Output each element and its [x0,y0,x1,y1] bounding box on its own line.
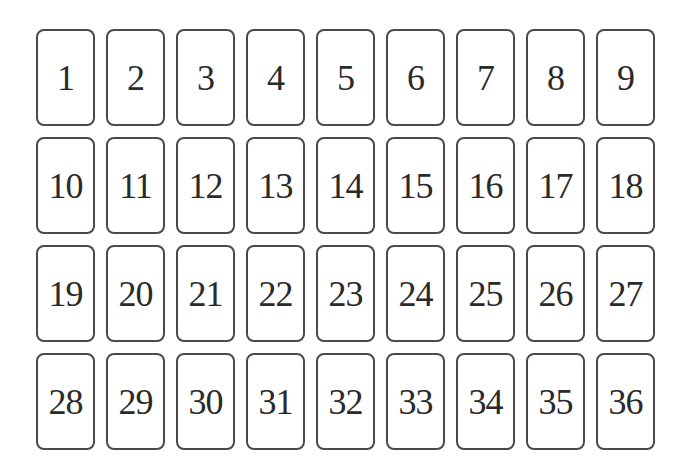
card[interactable]: 36 [596,353,655,450]
card[interactable]: 27 [596,245,655,342]
card[interactable]: 6 [386,29,445,126]
card[interactable]: 33 [386,353,445,450]
card-number: 2 [127,60,144,96]
card-number: 12 [189,168,223,204]
card-number: 18 [609,168,643,204]
card-number: 24 [399,276,433,312]
card-number: 21 [189,276,223,312]
card[interactable]: 24 [386,245,445,342]
card[interactable]: 15 [386,137,445,234]
card[interactable]: 21 [176,245,235,342]
card[interactable]: 9 [596,29,655,126]
card-number: 30 [189,384,223,420]
card-number: 31 [259,384,293,420]
card[interactable]: 19 [36,245,95,342]
card[interactable]: 12 [176,137,235,234]
card[interactable]: 4 [246,29,305,126]
card[interactable]: 31 [246,353,305,450]
card[interactable]: 1 [36,29,95,126]
card-number: 16 [469,168,503,204]
card[interactable]: 34 [456,353,515,450]
card-number: 13 [259,168,293,204]
card[interactable]: 14 [316,137,375,234]
card-number: 22 [259,276,293,312]
card[interactable]: 28 [36,353,95,450]
card-grid: 1 2 3 4 5 6 7 8 9 10 11 12 13 14 15 16 1… [36,29,655,450]
card-number: 19 [49,276,83,312]
card[interactable]: 18 [596,137,655,234]
card-number: 5 [337,60,354,96]
card[interactable]: 13 [246,137,305,234]
card[interactable]: 22 [246,245,305,342]
card[interactable]: 17 [526,137,585,234]
card-number: 8 [547,60,564,96]
card[interactable]: 23 [316,245,375,342]
card-number: 27 [609,276,643,312]
card-number: 6 [407,60,424,96]
card-number: 17 [539,168,573,204]
card[interactable]: 5 [316,29,375,126]
card[interactable]: 26 [526,245,585,342]
card-number: 28 [49,384,83,420]
card-number: 35 [539,384,573,420]
card-number: 15 [399,168,433,204]
card[interactable]: 16 [456,137,515,234]
card[interactable]: 3 [176,29,235,126]
card[interactable]: 20 [106,245,165,342]
card[interactable]: 7 [456,29,515,126]
card[interactable]: 10 [36,137,95,234]
card-number: 7 [477,60,494,96]
card-number: 32 [329,384,363,420]
card-number: 25 [469,276,503,312]
card[interactable]: 30 [176,353,235,450]
card[interactable]: 25 [456,245,515,342]
card-number: 14 [329,168,363,204]
card-number: 36 [609,384,643,420]
card-number: 1 [57,60,74,96]
card-number: 34 [469,384,503,420]
card-number: 26 [539,276,573,312]
card-number: 20 [119,276,153,312]
card-number: 9 [617,60,634,96]
card-number: 3 [197,60,214,96]
card[interactable]: 32 [316,353,375,450]
card[interactable]: 8 [526,29,585,126]
card-number: 33 [399,384,433,420]
card[interactable]: 29 [106,353,165,450]
card-number: 11 [119,168,152,204]
card[interactable]: 35 [526,353,585,450]
card-number: 29 [119,384,153,420]
card[interactable]: 2 [106,29,165,126]
card-number: 4 [267,60,284,96]
card-number: 23 [329,276,363,312]
card[interactable]: 11 [106,137,165,234]
card-number: 10 [49,168,83,204]
